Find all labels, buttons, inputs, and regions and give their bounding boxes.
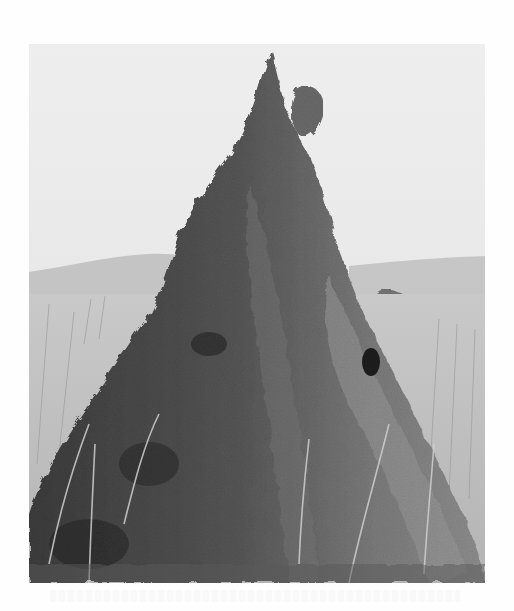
termite-mound-photo bbox=[29, 44, 485, 583]
ground bbox=[29, 564, 485, 583]
page-show-through bbox=[50, 590, 460, 602]
page bbox=[0, 0, 514, 611]
mound-hole bbox=[362, 348, 380, 376]
photo-illustration bbox=[29, 44, 485, 583]
